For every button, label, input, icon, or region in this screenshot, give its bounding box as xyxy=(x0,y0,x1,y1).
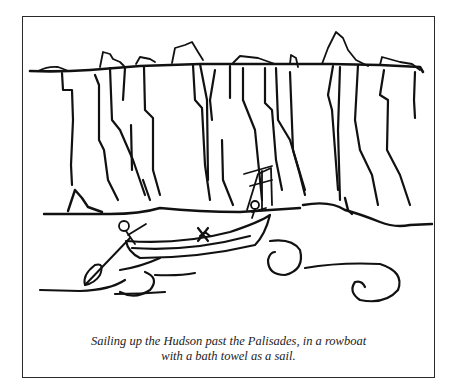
caption-line-2: with a bath towel as a sail. xyxy=(22,349,435,364)
waves xyxy=(40,240,400,301)
cliff-fissures xyxy=(62,64,415,205)
shoreline xyxy=(44,190,432,226)
cliff-top-line xyxy=(30,64,423,72)
rowboat xyxy=(126,215,270,258)
palisades-rowboat-illustration xyxy=(0,0,457,387)
figure-caption: Sailing up the Hudson past the Palisades… xyxy=(22,334,435,364)
caption-line-1: Sailing up the Hudson past the Palisades… xyxy=(22,334,435,349)
oar xyxy=(84,238,130,285)
